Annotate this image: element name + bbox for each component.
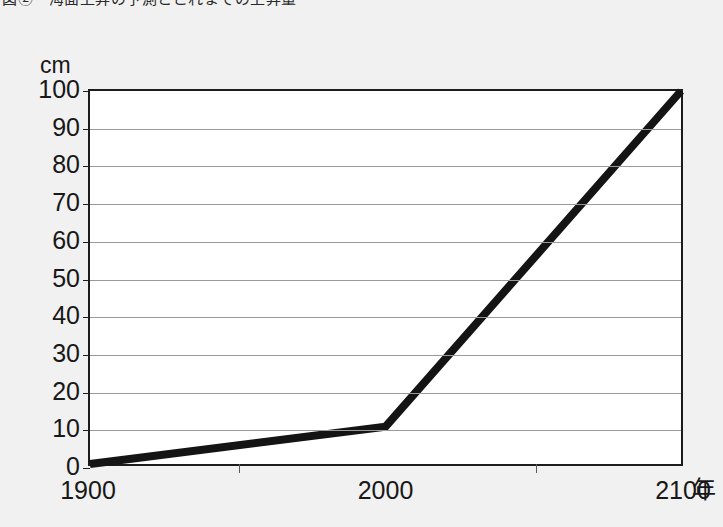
y-axis-tick: [83, 317, 90, 318]
y-axis-tick: [83, 355, 90, 356]
x-axis-tick-label: 2000: [358, 478, 414, 503]
y-axis-tick-label: 10: [22, 416, 80, 441]
y-axis-tick-label: 100: [22, 77, 80, 102]
y-axis-tick-label: 40: [22, 303, 80, 328]
y-axis-tick: [83, 430, 90, 431]
gridline-horizontal: [90, 430, 681, 431]
y-axis-tick-label: 0: [22, 454, 80, 479]
series-line-layer: [90, 91, 681, 464]
y-axis-tick-label: 80: [22, 152, 80, 177]
x-axis-tick-labels: 190020002100: [0, 478, 723, 518]
y-axis-tick-label: 60: [22, 227, 80, 252]
gridline-horizontal: [90, 280, 681, 281]
plot-frame: [88, 89, 683, 466]
y-axis-tick-label: 70: [22, 190, 80, 215]
gridline-horizontal: [90, 317, 681, 318]
y-axis-tick-label: 20: [22, 378, 80, 403]
figure-root: 図② 海面上昇の予測とこれまでの上昇量 cm 01020304050607080…: [0, 0, 723, 527]
y-axis-tick: [83, 91, 90, 92]
gridline-horizontal: [90, 166, 681, 167]
y-axis-tick-label: 50: [22, 265, 80, 290]
gridline-horizontal: [90, 393, 681, 394]
y-axis-tick-label: 90: [22, 114, 80, 139]
x-axis-tick: [536, 464, 537, 473]
y-axis-tick: [83, 280, 90, 281]
x-axis-tick-label: 1900: [60, 478, 116, 503]
line-chart: cm 0102030405060708090100 190020002100 年: [0, 14, 723, 527]
y-axis-tick: [83, 468, 90, 469]
y-axis-tick: [83, 129, 90, 130]
x-axis-unit-label: 年: [692, 478, 716, 502]
gridline-horizontal: [90, 242, 681, 243]
figure-caption-text: 図② 海面上昇の予測とこれまでの上昇量: [0, 0, 723, 9]
gridline-horizontal: [90, 355, 681, 356]
y-axis-tick-label: 30: [22, 340, 80, 365]
y-axis-tick-labels: 0102030405060708090100: [14, 89, 80, 466]
y-axis-tick: [83, 393, 90, 394]
gridline-horizontal: [90, 204, 681, 205]
series-line-sea-level: [90, 91, 681, 464]
y-axis-tick: [83, 204, 90, 205]
y-axis-tick: [83, 166, 90, 167]
y-axis-tick: [83, 242, 90, 243]
gridline-horizontal: [90, 129, 681, 130]
figure-caption: 図② 海面上昇の予測とこれまでの上昇量: [0, 0, 723, 9]
x-axis-tick: [239, 464, 240, 473]
